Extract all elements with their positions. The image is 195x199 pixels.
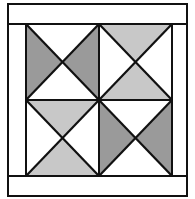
bottom-strip	[8, 176, 187, 196]
quadrant-top-left	[26, 24, 99, 100]
quadrant-bottom-right	[99, 100, 172, 176]
quilt-block-diagram	[0, 0, 195, 199]
quadrant-bottom-left	[26, 100, 99, 176]
top-strip	[8, 4, 187, 24]
quadrant-top-right	[99, 24, 172, 100]
quadrant-group	[26, 24, 172, 176]
